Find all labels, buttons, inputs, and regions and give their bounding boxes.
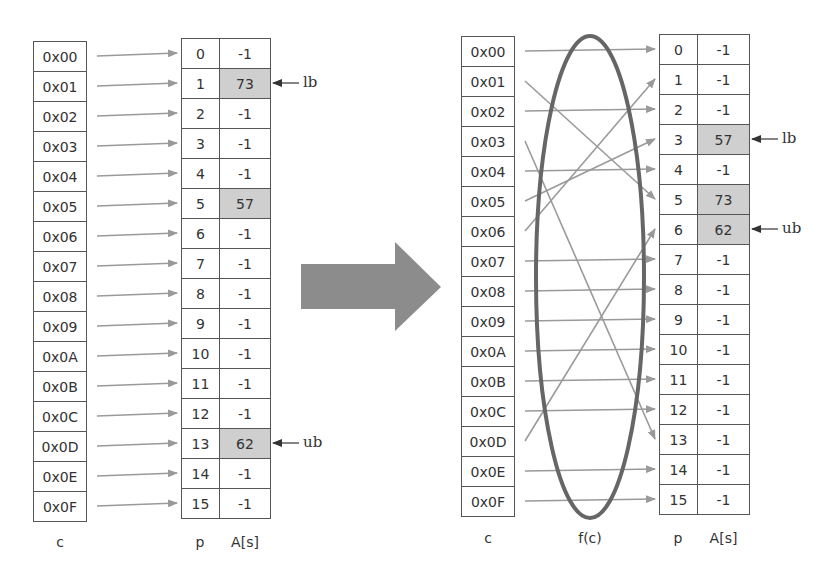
c-cell: 0x0E [33, 461, 87, 492]
mapping-arrow [97, 293, 177, 296]
c-cell: 0x0A [461, 336, 515, 367]
a-cell-highlighted: 73 [219, 68, 271, 99]
right-lb-label: lb [782, 129, 796, 147]
mapping-arrow [97, 353, 177, 356]
c-cell: 0x0A [33, 341, 87, 372]
transform-arrow-icon [301, 242, 441, 331]
p-cell: 14 [659, 454, 698, 485]
a-cell: -1 [219, 128, 271, 159]
c-cell: 0x04 [33, 161, 87, 192]
mapping-arrow [525, 289, 655, 291]
p-cell: 4 [181, 158, 220, 189]
p-cell: 6 [659, 214, 698, 245]
a-cell: -1 [219, 38, 271, 69]
p-cell: 9 [659, 304, 698, 335]
a-cell: -1 [219, 398, 271, 429]
c-cell: 0x05 [33, 191, 87, 222]
c-cell: 0x00 [33, 41, 87, 72]
mapping-arrow [525, 499, 655, 501]
a-cell: -1 [697, 304, 750, 335]
mapping-arrow [97, 443, 177, 446]
p-cell: 5 [181, 188, 220, 219]
c-cell: 0x00 [461, 36, 515, 67]
a-cell: -1 [697, 394, 750, 425]
a-cell: -1 [219, 338, 271, 369]
p-cell: 1 [659, 64, 698, 95]
a-cell: -1 [219, 98, 271, 129]
p-cell: 9 [181, 308, 220, 339]
c-cell: 0x0D [33, 431, 87, 462]
c-cell: 0x04 [461, 156, 515, 187]
p-cell: 0 [181, 38, 220, 69]
a-cell-highlighted: 57 [697, 124, 750, 155]
c-cell: 0x06 [33, 221, 87, 252]
c-cell: 0x0C [461, 396, 515, 427]
c-cell: 0x08 [461, 276, 515, 307]
a-cell: -1 [219, 488, 271, 519]
mapping-arrow [97, 203, 177, 206]
p-cell: 11 [181, 368, 220, 399]
p-cell: 2 [659, 94, 698, 125]
a-cell: -1 [697, 484, 750, 515]
c-cell: 0x0D [461, 426, 515, 457]
c-cell: 0x01 [33, 71, 87, 102]
a-cell: -1 [219, 248, 271, 279]
mapping-arrow [525, 349, 655, 351]
right-caption-c: c [461, 530, 515, 546]
a-cell: -1 [219, 158, 271, 189]
c-cell: 0x09 [33, 311, 87, 342]
p-cell: 15 [659, 484, 698, 515]
p-cell: 15 [181, 488, 220, 519]
mapping-arrow [97, 503, 177, 506]
left-ub-label: ub [303, 433, 322, 451]
a-cell: -1 [697, 154, 750, 185]
right-caption-f: f(c) [565, 530, 615, 546]
left-lb-label: lb [303, 73, 317, 91]
p-cell: 3 [181, 128, 220, 159]
p-cell: 3 [659, 124, 698, 155]
a-cell: -1 [697, 424, 750, 455]
a-cell: -1 [697, 244, 750, 275]
c-cell: 0x08 [33, 281, 87, 312]
p-cell: 13 [181, 428, 220, 459]
hash-function-ellipse [536, 36, 644, 518]
c-cell: 0x09 [461, 306, 515, 337]
c-cell: 0x02 [461, 96, 515, 127]
a-cell: -1 [219, 278, 271, 309]
p-cell: 5 [659, 184, 698, 215]
p-cell: 2 [181, 98, 220, 129]
mapping-arrow [97, 173, 177, 176]
p-cell: 10 [659, 334, 698, 365]
a-cell: -1 [219, 218, 271, 249]
p-cell: 4 [659, 154, 698, 185]
a-cell: -1 [219, 458, 271, 489]
mapping-arrow [97, 53, 177, 56]
mapping-arrow [97, 113, 177, 116]
a-cell: -1 [697, 94, 750, 125]
c-cell: 0x01 [461, 66, 515, 97]
c-cell: 0x03 [461, 126, 515, 157]
c-cell: 0x03 [33, 131, 87, 162]
c-cell: 0x0E [461, 456, 515, 487]
right-caption-a: A[s] [697, 530, 750, 546]
p-cell: 10 [181, 338, 220, 369]
mapping-arrow [525, 49, 655, 51]
a-cell-highlighted: 57 [219, 188, 271, 219]
c-cell: 0x07 [33, 251, 87, 282]
p-cell: 12 [181, 398, 220, 429]
a-cell: -1 [697, 34, 750, 65]
left-caption-c: c [33, 534, 87, 550]
c-cell: 0x0C [33, 401, 87, 432]
p-cell: 7 [181, 248, 220, 279]
mapping-arrow [97, 233, 177, 236]
mapping-arrow [525, 109, 655, 111]
c-cell: 0x0B [33, 371, 87, 402]
a-cell: -1 [697, 64, 750, 95]
c-cell: 0x02 [33, 101, 87, 132]
p-cell: 14 [181, 458, 220, 489]
c-cell: 0x05 [461, 186, 515, 217]
c-cell: 0x0F [461, 486, 515, 517]
mapping-arrow [97, 263, 177, 266]
mapping-arrow [525, 379, 655, 381]
p-cell: 7 [659, 244, 698, 275]
